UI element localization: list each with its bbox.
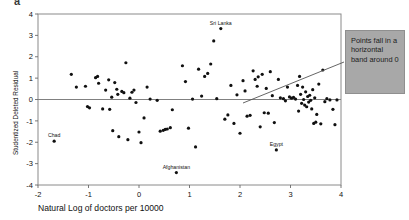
data-point bbox=[117, 135, 120, 138]
y-tick-label: -2 bbox=[26, 138, 33, 147]
y-tick-label: -3 bbox=[26, 159, 33, 168]
data-point bbox=[200, 94, 203, 97]
data-point bbox=[238, 132, 241, 135]
data-point bbox=[323, 100, 326, 103]
point-labels: Sri LankaChadAfghanistanEgypt bbox=[48, 20, 284, 170]
y-tick-label: 3 bbox=[29, 31, 33, 40]
data-point bbox=[257, 75, 260, 78]
data-point bbox=[331, 108, 334, 111]
data-point bbox=[137, 130, 140, 133]
x-tick-label: -2 bbox=[35, 190, 42, 199]
data-point bbox=[149, 97, 152, 100]
data-point bbox=[184, 80, 187, 83]
data-point bbox=[275, 148, 278, 151]
data-point bbox=[245, 115, 248, 118]
data-point bbox=[206, 72, 209, 75]
data-point bbox=[209, 62, 212, 65]
data-point bbox=[139, 141, 142, 144]
data-point bbox=[297, 109, 300, 112]
data-point bbox=[166, 127, 169, 130]
callout-annotation: Points fall in a horizontal band around … bbox=[345, 30, 405, 94]
data-point bbox=[254, 78, 257, 81]
data-point bbox=[111, 129, 114, 132]
data-point bbox=[70, 73, 73, 76]
y-tick-label: 4 bbox=[29, 10, 33, 19]
data-point bbox=[128, 97, 131, 100]
data-point bbox=[296, 84, 299, 87]
data-point bbox=[175, 171, 178, 174]
data-point bbox=[115, 88, 118, 91]
data-point bbox=[53, 140, 56, 143]
data-point bbox=[194, 145, 197, 148]
data-point bbox=[226, 113, 229, 116]
data-point bbox=[232, 122, 235, 125]
data-point bbox=[271, 94, 274, 97]
data-point-label: Sri Lanka bbox=[210, 20, 232, 26]
data-point bbox=[265, 87, 268, 90]
data-point bbox=[286, 86, 289, 89]
y-tick-label: -4 bbox=[26, 181, 33, 190]
data-point bbox=[249, 114, 252, 117]
data-point-label: Egypt bbox=[270, 141, 284, 147]
data-point bbox=[313, 96, 316, 99]
data-point bbox=[110, 96, 113, 99]
data-point bbox=[223, 118, 226, 121]
data-point bbox=[171, 108, 174, 111]
data-point bbox=[116, 93, 119, 96]
data-point bbox=[88, 106, 91, 109]
y-tick-label: -1 bbox=[26, 117, 33, 126]
data-point bbox=[256, 85, 259, 88]
data-point bbox=[328, 98, 331, 101]
data-point bbox=[97, 82, 100, 85]
data-point bbox=[325, 97, 328, 100]
data-points bbox=[53, 27, 339, 174]
data-point bbox=[156, 99, 159, 102]
x-tick-label: 0 bbox=[137, 190, 141, 199]
data-point bbox=[333, 123, 336, 126]
x-axis-title: Natural Log of doctors per 10000 bbox=[38, 203, 164, 213]
x-tick-label: 4 bbox=[339, 190, 343, 199]
data-point bbox=[203, 75, 206, 78]
y-tick-label: 2 bbox=[29, 52, 33, 61]
x-tick-label: 2 bbox=[238, 190, 242, 199]
data-point bbox=[124, 61, 127, 64]
data-point bbox=[235, 93, 238, 96]
x-axis-ticks: -2-101234 bbox=[35, 185, 343, 199]
data-point bbox=[181, 64, 184, 67]
data-point bbox=[309, 99, 312, 102]
data-point bbox=[299, 93, 302, 96]
data-point bbox=[132, 88, 135, 91]
y-tick-label: 0 bbox=[29, 95, 33, 104]
data-point bbox=[314, 121, 317, 124]
data-point bbox=[298, 75, 301, 78]
data-point bbox=[261, 73, 264, 76]
data-point bbox=[159, 130, 162, 133]
data-point bbox=[305, 105, 308, 108]
data-point bbox=[215, 97, 218, 100]
data-point bbox=[191, 97, 194, 100]
data-point bbox=[302, 98, 305, 101]
data-point bbox=[294, 97, 297, 100]
data-point bbox=[304, 90, 307, 93]
data-point bbox=[308, 94, 311, 97]
data-point bbox=[96, 75, 99, 78]
data-point bbox=[197, 68, 200, 71]
data-point bbox=[279, 96, 282, 99]
data-point bbox=[273, 121, 276, 124]
data-point bbox=[126, 138, 129, 141]
data-point bbox=[212, 39, 215, 42]
data-point bbox=[229, 84, 232, 87]
data-point bbox=[219, 27, 222, 30]
x-tick-label: 1 bbox=[187, 190, 191, 199]
data-point bbox=[101, 107, 104, 110]
x-tick-label: -1 bbox=[85, 190, 92, 199]
data-point bbox=[319, 122, 322, 125]
data-point bbox=[142, 116, 145, 119]
data-point bbox=[311, 88, 314, 91]
data-point bbox=[259, 125, 262, 128]
data-point bbox=[134, 101, 137, 104]
y-axis-title: Studentized Deleted Residual bbox=[12, 71, 19, 155]
x-tick-label: 3 bbox=[288, 190, 292, 199]
data-point bbox=[267, 112, 270, 115]
data-point bbox=[300, 102, 303, 105]
